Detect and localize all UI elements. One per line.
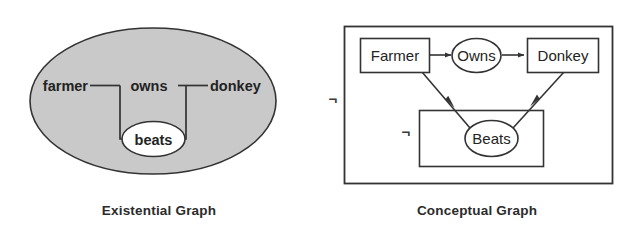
caption-conceptual-graph: Conceptual Graph	[318, 203, 636, 218]
eg-node-label-owns: owns	[130, 78, 167, 94]
negation-symbol-outer: ¬	[329, 90, 338, 107]
conceptual-graph-drawing: Farmer Owns Donkey Beats ¬ ¬	[318, 0, 636, 200]
existential-graph-drawing: farmer owns donkey beats	[0, 0, 318, 200]
cg-node-label-beats: Beats	[472, 130, 510, 147]
cg-node-label-farmer: Farmer	[371, 47, 419, 64]
negation-symbol-inner: ¬	[402, 123, 411, 140]
panel-conceptual-graph: Farmer Owns Donkey Beats ¬ ¬ Conceptual …	[318, 0, 636, 243]
eg-node-label-farmer: farmer	[43, 78, 88, 94]
eg-node-label-donkey: donkey	[210, 78, 261, 94]
panel-existential-graph: farmer owns donkey beats Existential Gra…	[0, 0, 318, 243]
cg-node-label-owns: Owns	[457, 47, 495, 64]
caption-existential-graph: Existential Graph	[0, 203, 318, 218]
figure-root: farmer owns donkey beats Existential Gra…	[0, 0, 636, 243]
cg-node-label-donkey: Donkey	[538, 47, 589, 64]
eg-node-label-beats: beats	[135, 132, 173, 148]
